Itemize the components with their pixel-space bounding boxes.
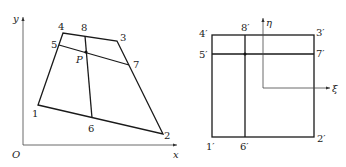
node-3-label: 3 [120, 32, 126, 43]
node-7-label: 7 [133, 59, 139, 70]
element-mapping-figure: y x O 1 2 3 4 5 6 7 8 P η ξ 1′ 2′ 3′ 4′ … [0, 0, 346, 167]
point-p-marker [84, 50, 87, 53]
node-3prime-label: 3′ [316, 27, 325, 38]
node-6-label: 6 [88, 123, 94, 134]
origin-label: O [12, 149, 20, 160]
node-1prime-label: 1′ [206, 141, 215, 152]
node-4prime-label: 4′ [199, 28, 208, 39]
node-5-label: 5 [51, 39, 57, 50]
x-axis-label: x [173, 149, 179, 160]
node-4-label: 4 [58, 21, 64, 32]
node-5prime-label: 5′ [199, 49, 208, 60]
node-1-label: 1 [32, 108, 38, 119]
mapped-point-marker [244, 53, 247, 56]
eta-axis-label: η [266, 17, 272, 28]
node-2-label: 2 [164, 130, 170, 141]
node-8-label: 8 [81, 22, 87, 33]
parent-element-diagram: η ξ 1′ 2′ 3′ 4′ 5′ 6′ 7′ 8′ [199, 17, 338, 152]
node-2prime-label: 2′ [317, 133, 326, 144]
node-8prime-label: 8′ [241, 22, 250, 33]
node-6prime-label: 6′ [240, 141, 249, 152]
line-5-7 [59, 45, 129, 65]
xi-axis-label: ξ [332, 83, 338, 94]
line-8-6 [85, 36, 92, 118]
node-7prime-label: 7′ [316, 48, 325, 59]
physical-element-diagram: y x O 1 2 3 4 5 6 7 8 P [12, 13, 179, 160]
y-axis-label: y [12, 13, 19, 24]
point-p-label: P [75, 54, 83, 65]
